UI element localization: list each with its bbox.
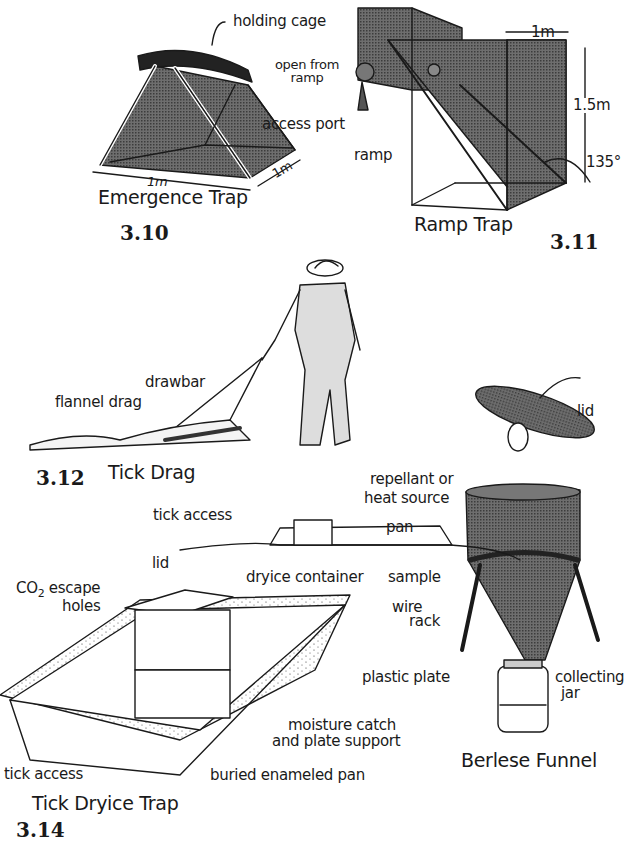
label-plate-support: and plate support — [272, 734, 400, 749]
figure-number-3-12: 3.12 — [36, 468, 85, 488]
title-ramp-trap: Ramp Trap — [414, 214, 513, 234]
label-flannel-drag: flannel drag — [55, 395, 142, 410]
title-berlese-funnel: Berlese Funnel — [461, 750, 597, 770]
figure-number-3-14: 3.14 — [16, 820, 65, 840]
emergence-trap-drawing — [93, 22, 300, 190]
label-tick-access-bottom: tick access — [4, 767, 83, 782]
label-rack: rack — [409, 614, 440, 629]
label-drawbar: drawbar — [145, 375, 205, 390]
label-tick-access-top: tick access — [153, 508, 232, 523]
label-co2: CO — [16, 579, 38, 597]
title-tick-drag: Tick Drag — [108, 462, 195, 482]
title-emergence-trap: Emergence Trap — [98, 187, 248, 207]
label-holding-cage: holding cage — [233, 14, 326, 29]
label-holes: holes — [62, 599, 100, 614]
label-escape: escape — [49, 579, 100, 597]
label-pan: pan — [386, 520, 413, 535]
label-ramp-height: 1.5m — [573, 98, 610, 113]
label-jar: jar — [561, 686, 580, 701]
figure-number-3-10: 3.10 — [120, 223, 169, 243]
label-dryice-lid: lid — [152, 556, 169, 571]
tick-drag-drawing — [30, 260, 360, 450]
label-sample: sample — [388, 570, 441, 585]
label-open-from-ramp: open from ramp — [268, 58, 346, 84]
label-plastic-plate: plastic plate — [362, 670, 450, 685]
label-buried-pan: buried enameled pan — [210, 768, 365, 783]
label-collecting: collecting — [555, 670, 624, 685]
label-access-port: access port — [262, 117, 345, 132]
ramp-trap-drawing — [356, 8, 590, 210]
label-dryice-container: dryice container — [246, 570, 363, 585]
title-tick-dryice-trap: Tick Dryice Trap — [32, 793, 178, 813]
label-ramp-angle: 135° — [586, 155, 621, 170]
label-co2-subscript: 2 — [38, 587, 45, 600]
figure-number-3-11: 3.11 — [550, 232, 599, 252]
label-ramp: ramp — [354, 148, 392, 163]
label-open-from-ramp-text: open from ramp — [268, 58, 346, 84]
label-funnel-lid: lid — [577, 404, 594, 419]
label-moisture-catch: moisture catch — [288, 718, 396, 733]
label-ramp-width: 1m — [531, 25, 555, 40]
label-heat-source: heat source — [364, 491, 449, 506]
dryice-trap-drawing — [0, 520, 520, 775]
label-repellant: repellant or — [370, 472, 453, 487]
